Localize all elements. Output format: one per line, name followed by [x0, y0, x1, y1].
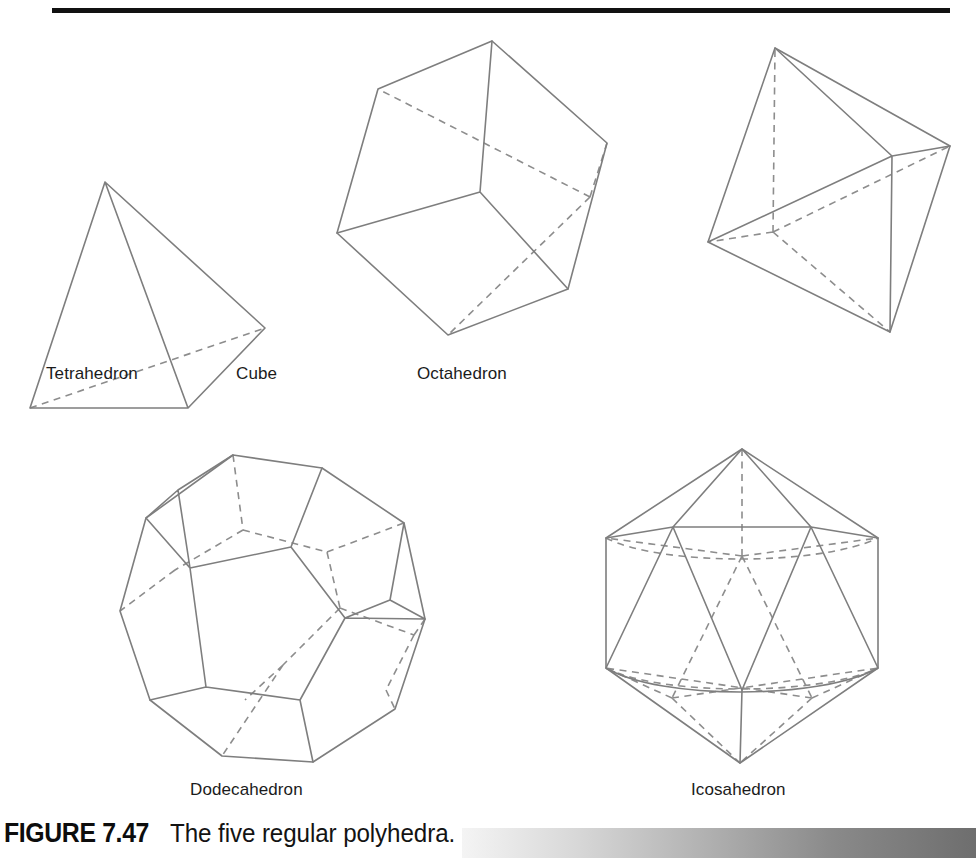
octahedron-figure [708, 48, 950, 332]
figure-number: FIGURE 7.47 [4, 818, 149, 849]
caption-gradient-bar [462, 828, 976, 858]
label-cube: Cube [236, 364, 277, 384]
label-icosahedron: Icosahedron [691, 780, 786, 800]
figure-caption-text: The five regular polyhedra. [170, 818, 455, 849]
figure-caption: FIGURE 7.47 The five regular polyhedra. [4, 818, 476, 849]
label-dodecahedron: Dodecahedron [190, 780, 303, 800]
dodecahedron-figure [120, 455, 425, 762]
icosahedron-figure [606, 449, 878, 763]
label-octahedron: Octahedron [417, 364, 507, 384]
figure-root: Tetrahedron Cube Octahedron Dodecahedron… [0, 0, 976, 866]
cube-figure [337, 41, 607, 335]
polyhedra-drawing [0, 0, 976, 800]
label-tetrahedron: Tetrahedron [46, 364, 138, 384]
